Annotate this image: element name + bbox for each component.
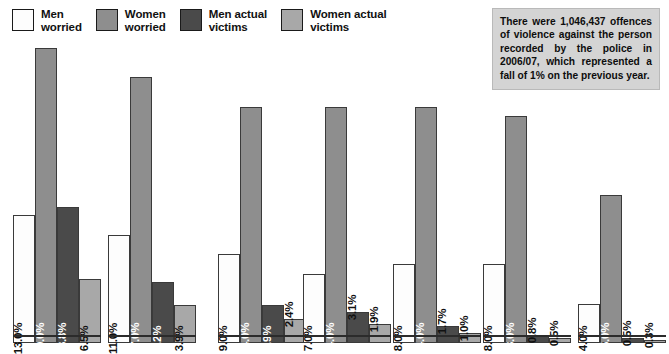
bar-group: 8.0%24.0%1.7%1.0% bbox=[393, 8, 481, 343]
bar-group: 9.0%24.0%3.9%2.4% bbox=[218, 8, 306, 343]
bar-women-victims[interactable]: 3.9% bbox=[174, 305, 196, 343]
bar-value-label: 6.2% bbox=[152, 325, 164, 350]
group-baseline bbox=[483, 335, 571, 337]
bar-women-victims[interactable]: 0.5% bbox=[549, 338, 571, 343]
bar-value-label: 4.0% bbox=[578, 325, 590, 350]
bar-men-worried[interactable]: 8.0% bbox=[393, 264, 415, 343]
bar-group: 7.0%24.0%3.1%1.9% bbox=[303, 8, 391, 343]
bar-value-label: 1.0% bbox=[459, 315, 471, 340]
legend-label-men-worried: Men worried bbox=[41, 8, 82, 33]
bar-women-victims[interactable]: 6.5% bbox=[79, 279, 101, 343]
legend-item-men-victims[interactable]: Men actual victims bbox=[180, 8, 267, 33]
bar-value-label: 13.8% bbox=[57, 322, 69, 354]
bar-value-label: 0.5% bbox=[622, 320, 634, 345]
bar-men-worried[interactable]: 11.0% bbox=[108, 235, 130, 343]
bar-men-worried[interactable]: 7.0% bbox=[303, 274, 325, 343]
group-baseline bbox=[393, 335, 481, 337]
bar-women-worried[interactable]: 15.0% bbox=[600, 195, 622, 343]
bar-value-label: 1.9% bbox=[369, 307, 381, 332]
bar-value-label: 15.0% bbox=[600, 322, 612, 354]
bar-men-victims[interactable]: 3.1% bbox=[347, 312, 369, 343]
bar-value-label: 7.0% bbox=[303, 325, 315, 350]
bar-men-victims[interactable]: 6.2% bbox=[152, 282, 174, 343]
bar-men-worried[interactable]: 8.0% bbox=[483, 264, 505, 343]
bar-value-label: 24.0% bbox=[415, 322, 427, 354]
bar-value-label: 13.0% bbox=[13, 322, 25, 354]
legend-swatch-men-victims bbox=[180, 9, 202, 31]
bar-value-label: 3.9% bbox=[174, 325, 186, 350]
bar-value-label: 3.1% bbox=[347, 295, 359, 320]
bar-value-label: 3.9% bbox=[262, 325, 274, 350]
group-baseline bbox=[108, 335, 196, 337]
bar-men-victims[interactable]: 13.8% bbox=[57, 207, 79, 343]
bar-women-worried[interactable]: 24.0% bbox=[415, 107, 437, 343]
bar-value-label: 27.0% bbox=[130, 322, 142, 354]
bar-group: 13.0%30.0%13.8%6.5% bbox=[13, 8, 101, 343]
legend-item-women-worried[interactable]: Women worried bbox=[96, 8, 166, 33]
bar-value-label: 8.0% bbox=[393, 325, 405, 350]
chart-legend: Men worriedWomen worriedMen actual victi… bbox=[12, 8, 387, 33]
bar-value-label: 30.0% bbox=[35, 322, 47, 354]
group-baseline bbox=[13, 335, 101, 337]
bar-women-worried[interactable]: 23.0% bbox=[505, 116, 527, 343]
note-callout-text: There were 1,046,437 offences of violenc… bbox=[500, 15, 652, 82]
legend-label-women-worried: Women worried bbox=[125, 8, 166, 33]
bar-men-victims[interactable]: 0.5% bbox=[622, 338, 644, 343]
bar-value-label: 9.0% bbox=[218, 325, 230, 350]
bar-women-worried[interactable]: 24.0% bbox=[240, 107, 262, 343]
bar-women-worried[interactable]: 27.0% bbox=[130, 77, 152, 343]
legend-item-men-worried[interactable]: Men worried bbox=[12, 8, 82, 33]
bar-men-worried[interactable]: 9.0% bbox=[218, 254, 240, 343]
bar-value-label: 1.7% bbox=[437, 309, 449, 334]
bar-value-label: 24.0% bbox=[240, 322, 252, 354]
bar-women-worried[interactable]: 30.0% bbox=[35, 48, 57, 344]
group-baseline bbox=[578, 335, 666, 337]
legend-label-women-victims: Women actual victims bbox=[310, 8, 387, 33]
bar-value-label: 6.5% bbox=[79, 325, 91, 350]
bar-men-worried[interactable]: 13.0% bbox=[13, 215, 35, 343]
legend-swatch-women-worried bbox=[96, 9, 118, 31]
group-baseline bbox=[303, 335, 391, 337]
bar-value-label: 11.0% bbox=[108, 323, 120, 354]
bar-women-victims[interactable]: 1.9% bbox=[369, 324, 391, 343]
note-callout-box: There were 1,046,437 offences of violenc… bbox=[492, 8, 660, 90]
bar-men-worried[interactable]: 4.0% bbox=[578, 304, 600, 343]
legend-swatch-women-victims bbox=[281, 9, 303, 31]
bar-value-label: 8.0% bbox=[483, 325, 495, 350]
legend-item-women-victims[interactable]: Women actual victims bbox=[281, 8, 387, 33]
bar-value-label: 0.8% bbox=[527, 317, 539, 342]
legend-label-men-victims: Men actual victims bbox=[209, 8, 267, 33]
bar-value-label: 0.5% bbox=[549, 320, 561, 345]
bar-women-victims[interactable]: 0.3% bbox=[644, 340, 666, 343]
bar-value-label: 2.4% bbox=[284, 302, 296, 327]
legend-swatch-men-worried bbox=[12, 9, 34, 31]
bar-group: 11.0%27.0%6.2%3.9% bbox=[108, 8, 196, 343]
bar-men-victims[interactable]: 3.9% bbox=[262, 305, 284, 343]
group-baseline bbox=[218, 335, 306, 337]
bar-value-label: 23.0% bbox=[505, 322, 517, 354]
bar-value-label: 24.0% bbox=[325, 322, 337, 354]
bar-women-worried[interactable]: 24.0% bbox=[325, 107, 347, 343]
